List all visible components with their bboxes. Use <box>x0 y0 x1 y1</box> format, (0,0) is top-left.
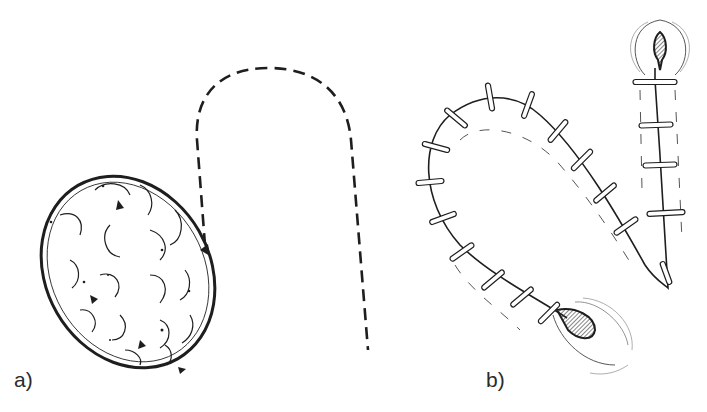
illustration-canvas <box>0 0 707 412</box>
dashed-incision-outline <box>197 68 368 350</box>
drain-opening-top <box>631 20 690 75</box>
suture-line <box>429 68 668 318</box>
panel-label-a: a) <box>14 368 33 392</box>
panel-a <box>7 68 368 400</box>
drain-opening-bottom <box>553 298 632 374</box>
panel-b <box>416 20 690 374</box>
cyst-lesion <box>7 144 249 399</box>
panel-label-b: b) <box>486 368 505 392</box>
sutures <box>416 80 685 325</box>
medical-illustration <box>0 0 707 412</box>
